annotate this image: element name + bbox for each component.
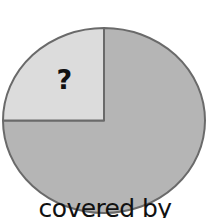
- pie-chart-svg: [0, 0, 210, 218]
- pie-chart-figure: ? covered by water: [0, 0, 210, 218]
- pie-slice-unknown: [3, 28, 104, 121]
